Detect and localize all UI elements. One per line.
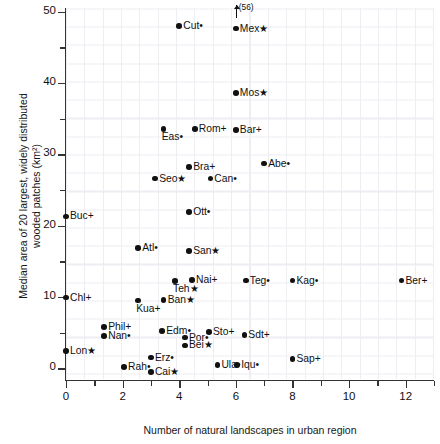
data-point-sdt[interactable]: [242, 332, 248, 338]
y-tick-label-40: 40: [28, 75, 56, 87]
x-tick-minor-13: [434, 381, 435, 386]
data-point-nan[interactable]: [101, 333, 107, 339]
y-tick-minor-25: [60, 190, 66, 191]
data-point-sap[interactable]: [290, 356, 296, 362]
data-point-phil[interactable]: [101, 324, 107, 330]
point-label-mex: Mex★: [240, 23, 268, 34]
point-label-cai: Cai★: [155, 366, 179, 377]
point-label-sto: Sto+: [213, 326, 234, 337]
data-point-nai[interactable]: [189, 277, 195, 283]
data-point-buc[interactable]: [63, 214, 69, 220]
x-tick-minor-7: [264, 381, 265, 386]
point-label-cut: Cut•: [183, 20, 203, 31]
point-label-bar: Bar+: [240, 124, 262, 135]
point-label-rom: Rom+: [199, 123, 227, 134]
data-point-mos[interactable]: [233, 90, 239, 96]
x-tick-12: [406, 381, 407, 388]
data-point-bar[interactable]: [233, 127, 239, 133]
y-tick-minor-15: [60, 261, 66, 262]
point-label-edm: Edm•: [166, 325, 191, 336]
data-point-rom[interactable]: [192, 126, 198, 132]
y-tick-20: [58, 226, 66, 227]
data-point-ban[interactable]: [161, 297, 167, 303]
y-tick-label-50: 50: [28, 4, 56, 16]
data-point-teg[interactable]: [243, 278, 249, 284]
data-point-ula[interactable]: [215, 362, 221, 368]
point-label-teg: Teg•: [250, 275, 270, 286]
x-tick-minor-5: [208, 381, 209, 386]
data-point-ott[interactable]: [186, 209, 192, 215]
point-label-eas: Eas•: [162, 131, 183, 142]
up-arrow-icon: [236, 5, 237, 18]
x-tick-6: [236, 381, 237, 388]
point-label-erz: Erz•: [155, 352, 174, 363]
x-tick-minor-11: [377, 381, 378, 386]
point-label-seo: Seo★: [159, 173, 186, 184]
point-label-ber: Ber+: [405, 275, 427, 286]
point-label-nai: Nai+: [196, 274, 217, 285]
y-tick-label-0: 0: [28, 360, 56, 372]
x-tick-10: [349, 381, 350, 388]
x-tick-label-0: 0: [51, 390, 81, 402]
x-tick-2: [123, 381, 124, 388]
y-axis-title: Median area of 20 largest, widely distri…: [0, 0, 60, 392]
x-tick-label-8: 8: [277, 390, 307, 402]
point-label-bei: Bei★: [189, 339, 213, 350]
data-point-rah[interactable]: [121, 364, 127, 370]
data-point-por[interactable]: [182, 335, 188, 341]
x-tick-minor-3: [151, 381, 152, 386]
point-label-ott: Ott•: [193, 206, 210, 217]
point-label-can: Can•: [214, 173, 237, 184]
x-tick-4: [179, 381, 180, 388]
y-tick-minor-45: [60, 47, 66, 48]
point-label-lon: Lon★: [70, 345, 96, 356]
scatter-plot-figure: Median area of 20 largest, widely distri…: [0, 0, 440, 444]
data-point-cai[interactable]: [148, 369, 154, 375]
y-axis-title-line2: wooded patches (km²): [30, 93, 43, 298]
x-tick-label-10: 10: [334, 390, 364, 402]
x-tick-label-4: 4: [164, 390, 194, 402]
point-label-bra: Bra+: [193, 161, 215, 172]
data-point-bei[interactable]: [182, 343, 188, 349]
y-tick-label-30: 30: [28, 146, 56, 158]
point-label-mos: Mos★: [240, 87, 268, 98]
x-axis-title: Number of natural landscapes in urban re…: [66, 424, 434, 436]
y-axis-line: [65, 8, 66, 381]
point-label-atl: Atl•: [142, 242, 158, 253]
point-label-abe: Abe•: [268, 158, 290, 169]
data-point-lon[interactable]: [63, 348, 69, 354]
y-tick-label-20: 20: [28, 218, 56, 230]
data-point-atl[interactable]: [135, 245, 141, 251]
data-point-iqu[interactable]: [234, 362, 240, 368]
y-tick-40: [58, 83, 66, 84]
point-label-sap: Sap+: [296, 353, 320, 364]
y-tick-minor-5: [60, 333, 66, 334]
point-label-kua: Kua+: [136, 303, 160, 314]
x-tick-minor-9: [321, 381, 322, 386]
data-point-erz[interactable]: [148, 355, 154, 361]
x-tick-minor-1: [94, 381, 95, 386]
x-axis-line: [66, 380, 434, 381]
annotation-offscale-value: (56): [239, 2, 254, 12]
data-point-bra[interactable]: [186, 164, 192, 170]
point-label-kag: Kag•: [296, 275, 318, 286]
point-label-sdt: Sdt+: [248, 329, 269, 340]
x-tick-label-2: 2: [108, 390, 138, 402]
point-label-chl: Chl+: [70, 292, 91, 303]
data-point-edm[interactable]: [159, 328, 165, 334]
y-axis-title-line1: Median area of 20 largest, widely distri…: [17, 93, 29, 298]
point-label-nan: Nan•: [108, 330, 131, 341]
point-label-san: San★: [193, 245, 220, 256]
x-tick-label-6: 6: [221, 390, 251, 402]
y-tick-0: [58, 368, 66, 369]
x-tick-0: [66, 381, 67, 388]
y-tick-50: [58, 12, 66, 13]
data-point-cut[interactable]: [176, 23, 182, 29]
x-tick-label-12: 12: [391, 390, 421, 402]
point-label-iqu: Iqu•: [241, 359, 259, 370]
point-label-teh: Teh★: [173, 283, 199, 294]
y-tick-label-10: 10: [28, 289, 56, 301]
point-label-buc: Buc+: [70, 210, 94, 221]
y-tick-minor-35: [60, 119, 66, 120]
data-point-san[interactable]: [186, 248, 192, 254]
